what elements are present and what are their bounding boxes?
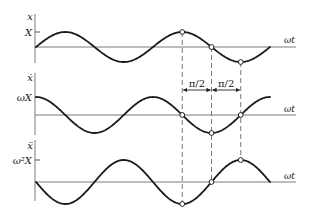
harmonic-motion-diagram: x X ωt ẋ ωX ωt ẍ ω²X ωt π/2 π/2 [0, 0, 310, 214]
intersection-marker [238, 60, 243, 65]
displacement-omega-t-label: ωt [284, 35, 295, 45]
intersection-marker [209, 45, 214, 50]
velocity-omega-t-label: ωt [284, 104, 295, 114]
intersection-marker [180, 30, 185, 35]
intersection-marker [238, 113, 243, 118]
phase-guide-lines [182, 32, 241, 204]
phase-label-1: π/2 [189, 78, 205, 89]
intersection-marker [238, 158, 243, 163]
displacement-amplitude-label: X [24, 27, 33, 38]
acceleration-omega-t-label: ωt [284, 171, 295, 181]
displacement-panel: x X ωt [24, 11, 296, 64]
intersection-marker [209, 131, 214, 136]
velocity-axis-label: ẋ [27, 72, 33, 83]
acceleration-panel: ẍ ω²X ωt [13, 140, 296, 206]
velocity-amplitude-label: ωX [17, 92, 33, 103]
displacement-axis-label: x [27, 11, 33, 22]
intersection-marker [180, 202, 185, 207]
velocity-panel: ẋ ωX ωt [17, 72, 296, 135]
intersection-marker [180, 113, 185, 118]
phase-label-2: π/2 [218, 78, 234, 89]
acceleration-amplitude-label: ω²X [13, 155, 33, 166]
intersection-marker [209, 180, 214, 185]
acceleration-axis-label: ẍ [27, 140, 33, 151]
